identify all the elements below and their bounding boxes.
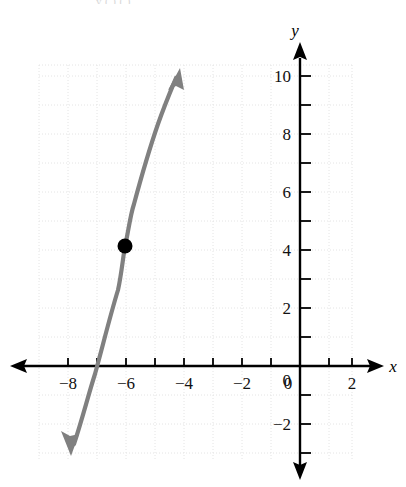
y-axis-ticks — [300, 76, 311, 453]
y-tick-label-0: 0 — [283, 371, 292, 390]
y-tick-label-10: 10 — [274, 67, 291, 86]
y-tick-labels: 10 8 6 4 2 0 −2 — [273, 67, 292, 434]
graph-figure: y ( ) ( ) — [0, 0, 406, 487]
y-tick-label-6: 6 — [283, 183, 292, 202]
y-tick-label-4: 4 — [283, 241, 292, 260]
x-tick-labels: −8 −6 −4 −2 0 2 — [59, 374, 356, 393]
coordinate-plane-svg: −8 −6 −4 −2 0 2 10 8 6 4 2 0 −2 x y — [0, 0, 406, 487]
x-axis — [10, 358, 384, 373]
top-partial-text: y ( ) ( ) — [96, 0, 346, 4]
y-axis-label: y — [289, 21, 299, 40]
y-axis — [293, 42, 311, 480]
y-tick-label-8: 8 — [283, 125, 292, 144]
y-axis-up-arrow-icon — [293, 42, 307, 60]
x-tick-label-neg8: −8 — [59, 374, 77, 393]
x-tick-label-neg6: −6 — [117, 374, 135, 393]
cubic-curve — [61, 68, 184, 456]
x-tick-label-2: 2 — [348, 374, 357, 393]
inflection-point-marker — [118, 239, 133, 254]
x-tick-label-neg2: −2 — [233, 374, 251, 393]
x-axis-label: x — [388, 357, 397, 376]
y-tick-label-neg2: −2 — [273, 415, 291, 434]
x-tick-label-neg4: −4 — [175, 374, 194, 393]
curve-top-arrow-icon — [168, 68, 184, 90]
y-tick-label-2: 2 — [283, 299, 292, 318]
